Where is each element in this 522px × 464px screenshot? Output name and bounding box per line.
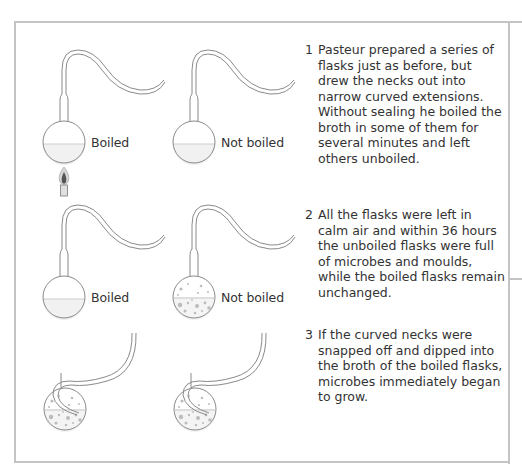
step-number: 2 [305, 207, 317, 223]
flask-label: Not boiled [221, 290, 284, 305]
flask-row3-snapped-2 [174, 333, 266, 432]
flask-label: Boiled [91, 135, 129, 150]
flask-row3-snapped-1 [44, 333, 136, 432]
step-text: If the curved necks were snapped off and… [318, 327, 505, 405]
step-text: Pasteur prepared a series of flasks just… [318, 42, 505, 166]
flask-label: Boiled [91, 290, 129, 305]
flask-label: Not boiled [221, 135, 284, 150]
step-text: All the flasks were left in calm air and… [318, 207, 505, 300]
bunsen-burner-icon [59, 167, 69, 196]
step-number: 1 [305, 42, 317, 58]
step-2: 2 All the flasks were left in calm air a… [305, 207, 505, 300]
step-3: 3 If the curved necks were snapped off a… [305, 327, 505, 405]
step-1: 1 Pasteur prepared a series of flasks ju… [305, 42, 505, 166]
step-number: 3 [305, 327, 317, 343]
